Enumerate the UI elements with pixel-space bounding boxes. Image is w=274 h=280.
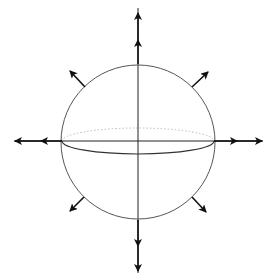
sphere-diagram	[0, 0, 274, 280]
arrow-upper-left-icon	[70, 71, 85, 87]
arrow-upper-right-icon	[192, 72, 208, 87]
arrow-lower-left-icon	[70, 197, 84, 211]
sphere-diagram-svg	[0, 0, 274, 280]
arrow-lower-right-icon	[192, 197, 206, 212]
